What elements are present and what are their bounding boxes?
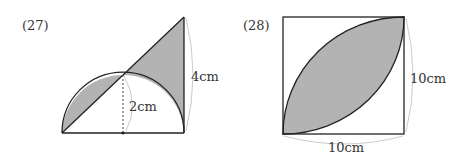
radius-label: 2cm — [129, 99, 157, 114]
height-label: 4cm — [191, 69, 219, 84]
problem-28-number: (28) — [243, 18, 270, 33]
side-horizontal-label: 10cm — [328, 140, 364, 155]
shaded-right-region — [123, 17, 184, 133]
center-dot — [122, 132, 125, 135]
figures-canvas: (27) 2cm 4cm (28) 10cm 10cm — [0, 0, 472, 160]
figure-28: (28) 10cm 10cm — [243, 17, 446, 155]
problem-27-number: (27) — [22, 18, 49, 33]
shaded-lens — [283, 17, 404, 134]
side-vertical-label: 10cm — [410, 71, 446, 86]
figure-27: (27) 2cm 4cm — [22, 17, 219, 135]
